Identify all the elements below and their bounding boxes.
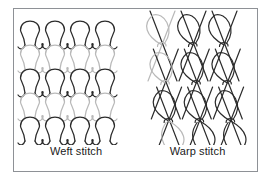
warp-stitch-caption: Warp stitch [138,145,257,158]
weft-stitch-diagram [16,9,136,145]
weft-stitch-caption: Weft stitch [16,145,136,158]
warp-stitch-panel: Warp stitch [138,9,257,171]
weft-stitch-panel: Weft stitch [16,9,136,171]
figure-border: Weft stitch Warp stitch [13,8,258,172]
warp-stitch-diagram [138,9,257,145]
figure-root: Weft stitch Warp stitch [0,0,273,185]
